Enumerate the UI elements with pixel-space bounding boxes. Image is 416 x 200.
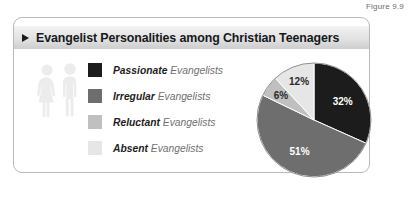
pie-slice-group xyxy=(257,63,371,177)
chart-title-bar: Evangelist Personalities among Christian… xyxy=(14,26,369,49)
legend-item-passionate: Passionate Evangelists xyxy=(88,57,233,83)
legend-label-soft: Evangelists xyxy=(151,143,204,154)
legend-swatch-passionate xyxy=(88,63,102,77)
chart-legend: Passionate Evangelists Irregular Evangel… xyxy=(88,57,233,161)
figure-caption: Figure 9.9 xyxy=(366,2,404,11)
two-people-icon xyxy=(33,62,85,124)
pie-chart: 32%51%6%12% xyxy=(252,58,376,182)
pie-slice-value-label: 32% xyxy=(333,96,353,107)
legend-label-strong: Irregular xyxy=(113,91,155,102)
legend-label-strong: Reluctant xyxy=(113,117,160,128)
legend-label-passionate: Passionate Evangelists xyxy=(113,65,223,76)
pie-slice-value-label: 12% xyxy=(289,76,309,87)
legend-swatch-reluctant xyxy=(88,115,102,129)
legend-label-soft: Evangelists xyxy=(158,91,211,102)
pie-slice-value-label: 51% xyxy=(290,146,310,157)
legend-label-strong: Passionate xyxy=(113,65,167,76)
legend-label-soft: Evangelists xyxy=(170,65,223,76)
triangle-right-icon xyxy=(22,34,29,42)
legend-label-soft: Evangelists xyxy=(163,117,216,128)
figure-container: Figure 9.9 Evangelist Personalities amon… xyxy=(0,0,416,200)
legend-swatch-irregular xyxy=(88,89,102,103)
legend-label-reluctant: Reluctant Evangelists xyxy=(113,117,215,128)
pie-slice-value-label: 6% xyxy=(274,90,289,101)
legend-label-strong: Absent xyxy=(113,143,148,154)
page-title: Evangelist Personalities among Christian… xyxy=(36,31,339,45)
legend-item-reluctant: Reluctant Evangelists xyxy=(88,109,233,135)
legend-label-absent: Absent Evangelists xyxy=(113,143,203,154)
legend-swatch-absent xyxy=(88,141,102,155)
legend-label-irregular: Irregular Evangelists xyxy=(113,91,210,102)
legend-item-irregular: Irregular Evangelists xyxy=(88,83,233,109)
legend-item-absent: Absent Evangelists xyxy=(88,135,233,161)
